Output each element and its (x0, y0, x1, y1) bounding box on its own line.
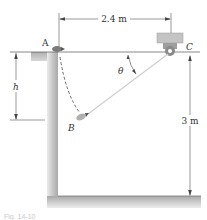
label-a: A (41, 38, 49, 48)
arrowhead-icon (59, 17, 65, 21)
figure-caption: Fig. 14-10 (4, 213, 36, 220)
label-c: C (186, 42, 193, 52)
rope-cb (88, 54, 168, 114)
label-h: h (13, 82, 19, 92)
label-b: B (67, 123, 75, 133)
pendulum-rope-diagram: 2.4 m C A B θ h (0, 0, 207, 220)
dimension-label-3m: 3 m (181, 116, 199, 126)
floor (47, 196, 201, 208)
body-at-a (52, 46, 65, 52)
dimension-2-4m: 2.4 m (59, 13, 171, 48)
svg-text:θ: θ (118, 66, 124, 76)
swing-path (60, 57, 80, 113)
dimension-h: h (10, 53, 45, 120)
body-at-b (75, 112, 89, 122)
dimension-label-2-4m: 2.4 m (101, 14, 127, 24)
angle-theta: θ (118, 55, 136, 76)
left-wall (31, 52, 58, 198)
arrowhead-icon (165, 17, 171, 21)
dimension-3m: 3 m (181, 55, 201, 196)
pulley-c (157, 33, 183, 56)
